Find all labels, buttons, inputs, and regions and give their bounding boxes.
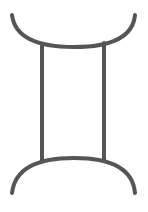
gemini-icon: [0, 0, 148, 212]
bottom-arc: [12, 158, 135, 193]
top-arc: [12, 15, 135, 47]
gemini-symbol: [0, 0, 148, 212]
